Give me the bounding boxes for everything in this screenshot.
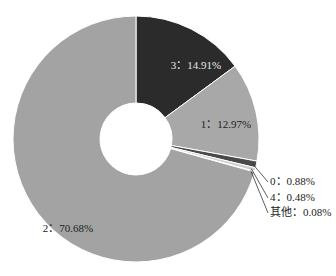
slice-label-4: 4：0.48% xyxy=(270,191,315,203)
donut-chart: 3：14.91%1：12.97%0：0.88%4：0.48%其他：0.08%2：… xyxy=(0,0,336,276)
slice-label-3: 3：14.91% xyxy=(171,59,221,71)
slice-label-其他: 其他：0.08% xyxy=(270,206,331,218)
slice-label-0: 0：0.88% xyxy=(270,175,315,187)
leader-line-4 xyxy=(251,169,268,198)
leader-line-其他 xyxy=(251,171,268,213)
slice-label-1: 1：12.97% xyxy=(201,118,251,130)
slice-label-2: 2：70.68% xyxy=(43,222,93,234)
